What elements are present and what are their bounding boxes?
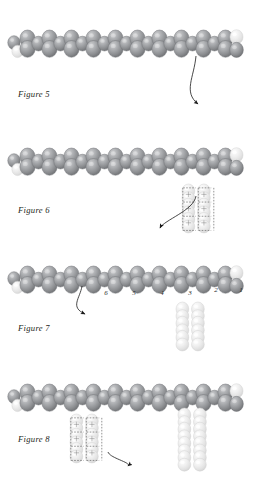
pale-bead-right-end	[230, 148, 243, 162]
figure-8-art	[8, 384, 244, 471]
bead-highlight	[177, 44, 182, 48]
bead-highlight	[78, 157, 83, 161]
bead-highlight	[56, 39, 61, 43]
figure-5-caption: Figure 5	[18, 89, 50, 99]
figure-6-art	[8, 148, 244, 233]
strip-bead-end-right	[230, 160, 244, 175]
bead-highlight	[144, 393, 149, 397]
bead-highlight	[166, 157, 171, 161]
bead-highlight	[88, 445, 92, 449]
bead-highlight	[177, 280, 182, 284]
bead-highlight	[67, 398, 72, 402]
bead-highlight	[89, 33, 94, 37]
bead-highlight	[196, 425, 200, 429]
bead-highlight	[155, 33, 160, 37]
bead-highlight	[45, 398, 50, 402]
bead-highlight	[133, 151, 138, 155]
bead-highlight	[221, 387, 226, 391]
figure-7-pale-ladder-column	[176, 302, 204, 351]
bead-highlight	[188, 39, 193, 43]
bead-highlight	[111, 269, 116, 273]
bead-highlight	[210, 275, 215, 279]
bead-highlight	[23, 269, 28, 273]
bead-highlight	[188, 393, 193, 397]
bead-highlight	[178, 341, 182, 344]
bead-highlight	[184, 215, 188, 219]
figure-8-caption: Figure 8	[18, 434, 50, 444]
bead-highlight	[89, 398, 94, 402]
instruction-sheet: 654321 Figure 5 Figure 6 Figure 7 Figure…	[0, 0, 267, 492]
bead-highlight	[210, 39, 215, 43]
figure-8-pale-ladder-column	[178, 408, 206, 471]
figure-7-bead-number-2: 2	[214, 286, 218, 294]
bead-highlight	[34, 39, 39, 43]
bead-highlight	[122, 393, 127, 397]
bead-highlight	[180, 447, 184, 450]
bead-highlight	[155, 280, 160, 284]
bead-highlight	[166, 39, 171, 43]
bead-highlight	[45, 387, 50, 391]
bead-highlight	[67, 151, 72, 155]
bead-highlight	[78, 39, 83, 43]
bead-highlight	[155, 269, 160, 273]
bead-highlight	[67, 33, 72, 37]
bead-highlight	[194, 312, 198, 315]
bead-highlight	[14, 48, 18, 51]
bead-highlight	[177, 387, 182, 391]
bead-highlight	[155, 398, 160, 402]
bead-highlight	[166, 393, 171, 397]
bead-highlight	[188, 157, 193, 161]
figure-7-bead-number-4: 4	[160, 289, 164, 297]
bead-highlight	[180, 432, 184, 435]
bead-highlight	[111, 280, 116, 284]
bead-highlight	[133, 398, 138, 402]
bead-highlight	[232, 32, 236, 36]
bead-highlight	[200, 215, 204, 219]
bead-highlight	[111, 398, 116, 402]
hanging-bead	[192, 338, 205, 351]
bead-highlight	[221, 280, 226, 284]
bead-highlight	[221, 398, 226, 402]
bead-highlight	[200, 187, 204, 191]
bead-highlight	[144, 39, 149, 43]
bead-highlight	[184, 187, 188, 191]
bead-highlight	[180, 461, 184, 464]
figure-6-caption: Figure 6	[18, 205, 50, 215]
figure-7-bead-number-6: 6	[104, 289, 108, 297]
bead-highlight	[67, 269, 72, 273]
strip-bead-end-right	[230, 396, 244, 411]
bead-highlight	[232, 150, 236, 154]
figure-7-strip	[8, 266, 244, 294]
bead-highlight	[56, 393, 61, 397]
bead-highlight	[199, 398, 204, 402]
bead-highlight	[23, 387, 28, 391]
bead-highlight	[133, 280, 138, 284]
bead-highlight	[221, 44, 226, 48]
bead-highlight	[196, 453, 200, 457]
hanging-bead	[178, 458, 191, 471]
bead-highlight	[111, 33, 116, 37]
bead-highlight	[194, 333, 198, 337]
bead-highlight	[178, 333, 182, 337]
bead-highlight	[177, 33, 182, 37]
bead-highlight	[56, 275, 61, 279]
bead-highlight	[133, 387, 138, 391]
hanging-bead	[176, 338, 189, 351]
bead-highlight	[221, 33, 226, 37]
bead-highlight	[111, 387, 116, 391]
bead-highlight	[196, 418, 200, 421]
bead-highlight	[72, 445, 76, 449]
bead-highlight	[144, 275, 149, 279]
bead-highlight	[133, 162, 138, 166]
bead-highlight	[232, 386, 236, 390]
bead-highlight	[72, 431, 76, 435]
figure-6-strip	[8, 148, 244, 176]
bead-highlight	[196, 447, 200, 450]
bead-highlight	[45, 33, 50, 37]
bead-highlight	[10, 38, 14, 42]
bead-highlight	[199, 151, 204, 155]
bead-highlight	[180, 439, 184, 443]
bead-highlight	[155, 387, 160, 391]
bead-highlight	[34, 275, 39, 279]
bead-highlight	[133, 33, 138, 37]
